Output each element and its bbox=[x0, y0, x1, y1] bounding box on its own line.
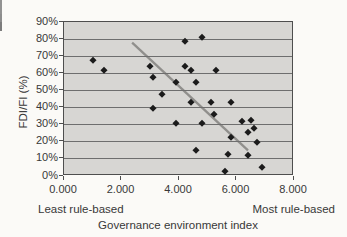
y-tick-label: 70% bbox=[14, 49, 58, 62]
plot-area bbox=[63, 21, 293, 175]
y-tick-label: 0% bbox=[14, 169, 58, 182]
x-axis-tick bbox=[63, 176, 64, 180]
x-axis-title: Governance environment index bbox=[63, 218, 293, 232]
x-axis-tick bbox=[293, 176, 294, 180]
y-axis-tick bbox=[59, 157, 63, 158]
y-gridline bbox=[64, 90, 292, 91]
x-axis-annotation-right: Most rule-based bbox=[243, 202, 335, 216]
x-tick-label: 8.000 bbox=[271, 183, 315, 196]
y-gridline bbox=[64, 39, 292, 40]
y-axis-tick bbox=[59, 106, 63, 107]
y-tick-label: 50% bbox=[14, 83, 58, 96]
x-tick-label: 6.000 bbox=[214, 183, 258, 196]
y-axis-tick bbox=[59, 89, 63, 90]
y-tick-label: 40% bbox=[14, 100, 58, 113]
y-tick-label: 60% bbox=[14, 66, 58, 79]
y-gridline bbox=[64, 107, 292, 108]
y-gridline bbox=[64, 158, 292, 159]
y-tick-label: 30% bbox=[14, 117, 58, 130]
trend-line bbox=[64, 22, 294, 176]
scan-artifact bbox=[0, 0, 2, 14]
x-axis-tick bbox=[178, 176, 179, 180]
y-axis-tick bbox=[59, 72, 63, 73]
y-gridline bbox=[64, 56, 292, 57]
x-tick-label: 2.000 bbox=[99, 183, 143, 196]
y-tick-label: 90% bbox=[14, 15, 58, 28]
y-axis-tick bbox=[59, 140, 63, 141]
x-axis-annotation-left: Least rule-based bbox=[38, 202, 124, 216]
y-tick-label: 10% bbox=[14, 151, 58, 164]
y-gridline bbox=[64, 124, 292, 125]
y-axis-tick bbox=[59, 38, 63, 39]
x-axis-tick bbox=[235, 176, 236, 180]
x-tick-label: 0.000 bbox=[41, 183, 85, 196]
y-tick-label: 20% bbox=[14, 134, 58, 147]
y-axis-tick bbox=[59, 123, 63, 124]
y-axis-tick bbox=[59, 55, 63, 56]
y-axis-tick bbox=[59, 21, 63, 22]
scatter-chart-figure: FDI/FI (%) Least rule-based Most rule-ba… bbox=[0, 0, 347, 237]
y-tick-label: 80% bbox=[14, 32, 58, 45]
x-tick-label: 4.000 bbox=[156, 183, 200, 196]
x-axis-tick bbox=[120, 176, 121, 180]
y-gridline bbox=[64, 73, 292, 74]
